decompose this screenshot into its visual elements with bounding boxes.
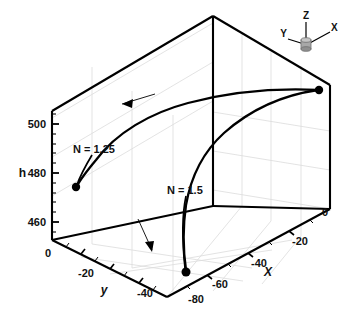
curve-label-n-1point25: N = 1.25 [73,143,115,155]
x-tick-label-minus60: -60 [212,278,228,290]
trajectory-endpoint-marker-n-1point25 [72,183,80,191]
h-tick-label-480: 480 [28,167,46,179]
x-tick-label-0: 0 [322,206,328,218]
trajectory-start-marker [315,86,323,94]
y-tick-label-minus20: -20 [78,267,94,279]
trajectory-endpoint-marker-n-1point5 [182,268,191,277]
floor-gridlines [52,206,301,297]
h-tick-label-460: 460 [28,216,46,228]
gizmo-hub-icon [301,38,311,52]
y-tick-label-minus40: -40 [137,287,153,299]
orientation-gizmo: Z X Y [280,10,338,51]
curve-label-n-1point5: N = 1.5 [167,184,203,196]
trajectory-curve-n-1point25 [77,90,318,186]
h-tick-label-500: 500 [28,118,46,130]
direction-arrow-lower [138,219,154,252]
x-tick-label-minus20: -20 [292,235,308,247]
leader-line-n-1point25 [77,155,92,185]
x-axis-ticks [187,220,313,289]
h-axis-title: h [19,166,26,180]
y-tick-label-0: 0 [45,247,51,259]
y-tick-label-minus80: -80 [188,293,204,305]
x-axis-title: X [263,265,273,279]
plot-canvas: 500 480 460 h 0 -20 -40 -80 y 0 -20 -40 … [0,0,345,316]
figure-3d-trajectory-plot: 500 480 460 h 0 -20 -40 -80 y 0 -20 -40 … [0,0,345,316]
gizmo-x-label: X [331,22,338,33]
gizmo-y-label: Y [280,28,287,39]
gizmo-z-label: Z [303,10,309,21]
y-axis-title: y [100,283,109,297]
plot-box-edges [52,16,330,297]
